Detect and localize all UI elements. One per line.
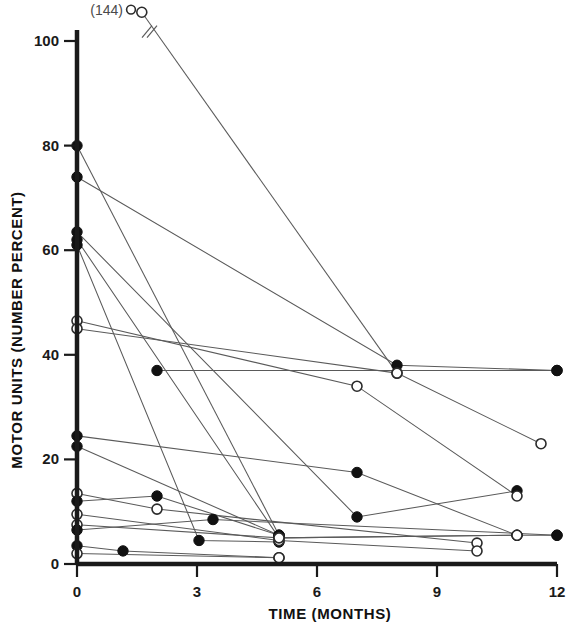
axes-layer bbox=[64, 30, 557, 577]
y-tick-label-0: 0 bbox=[51, 555, 59, 572]
y-tick-label-100: 100 bbox=[34, 32, 59, 49]
data-point-S7-2 bbox=[512, 491, 522, 501]
data-point-S18-1 bbox=[274, 553, 284, 563]
series-line-S4 bbox=[77, 232, 517, 517]
data-point-S8-2 bbox=[536, 439, 546, 449]
chart-figure: 020406080100036912 (144) MOTOR UNITS (NU… bbox=[0, 0, 574, 629]
annotation-marker-144 bbox=[127, 5, 136, 14]
data-point-S12-1 bbox=[152, 504, 162, 514]
x-tick-label-3: 3 bbox=[193, 583, 201, 600]
series-line-S16 bbox=[77, 520, 557, 536]
data-point-S16-2 bbox=[552, 530, 562, 540]
y-tick-label-40: 40 bbox=[42, 346, 59, 363]
series-line-S13 bbox=[77, 496, 279, 535]
data-point-S9-1 bbox=[552, 365, 562, 375]
data-point-S6-1 bbox=[194, 535, 204, 545]
data-point-S7-1 bbox=[352, 381, 362, 391]
data-point-S14-2 bbox=[472, 546, 482, 556]
data-point-S9-0 bbox=[152, 365, 162, 375]
x-tick-label-12: 12 bbox=[549, 583, 566, 600]
x-tick-label-0: 0 bbox=[73, 583, 81, 600]
series-line-S1 bbox=[142, 12, 397, 373]
x-tick-label-9: 9 bbox=[433, 583, 441, 600]
axis-break-slash-0 bbox=[142, 26, 152, 38]
data-point-S17-1 bbox=[118, 546, 128, 556]
data-point-S4-1 bbox=[352, 512, 362, 522]
series-line-S7 bbox=[77, 321, 517, 496]
data-point-S1-0 bbox=[137, 7, 147, 17]
axis-tick-labels: 020406080100036912 bbox=[34, 32, 565, 600]
series-line-S6 bbox=[77, 245, 279, 542]
x-tick-label-6: 6 bbox=[313, 583, 321, 600]
series-line-S3 bbox=[77, 177, 557, 371]
data-point-S16-1 bbox=[208, 514, 218, 524]
data-point-S8-1 bbox=[392, 368, 402, 378]
y-tick-label-60: 60 bbox=[42, 241, 59, 258]
data-point-S15-1 bbox=[274, 533, 284, 543]
series-line-S18 bbox=[77, 554, 279, 558]
data-point-S10-1 bbox=[352, 467, 362, 477]
series-line-S2 bbox=[77, 146, 279, 536]
data-point-S15-2 bbox=[512, 530, 522, 540]
annotation-label-144: (144) bbox=[90, 2, 123, 18]
series-line-S15 bbox=[77, 525, 517, 538]
y-tick-label-80: 80 bbox=[42, 137, 59, 154]
series-layer bbox=[72, 7, 562, 563]
series-line-S8 bbox=[77, 329, 541, 444]
y-tick-label-20: 20 bbox=[42, 450, 59, 467]
motor-units-scatter-line-chart: 020406080100036912 (144) bbox=[0, 0, 574, 629]
data-point-S13-1 bbox=[152, 491, 162, 501]
